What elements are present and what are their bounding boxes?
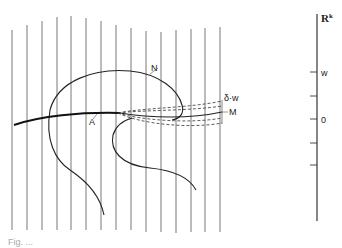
tick-label-w: w [320, 68, 328, 78]
label-A: A [89, 117, 95, 127]
curve-lower-right [112, 118, 196, 190]
curve-M [14, 113, 120, 125]
axis-title: Rk [321, 12, 333, 24]
label-M: M [229, 107, 237, 117]
label-N: N [151, 63, 158, 73]
curve-M-continuation [120, 112, 222, 117]
rk-axis [310, 14, 317, 221]
caption: Fig. ... [8, 237, 33, 247]
tick-label-0: 0 [321, 115, 326, 125]
dashed-neighborhood [118, 101, 222, 126]
diagram-canvas: N A δ·w M Rk w 0 Fig. ... [0, 0, 342, 248]
vertical-lines [12, 16, 220, 233]
label-delta-w: δ·w [224, 93, 239, 103]
